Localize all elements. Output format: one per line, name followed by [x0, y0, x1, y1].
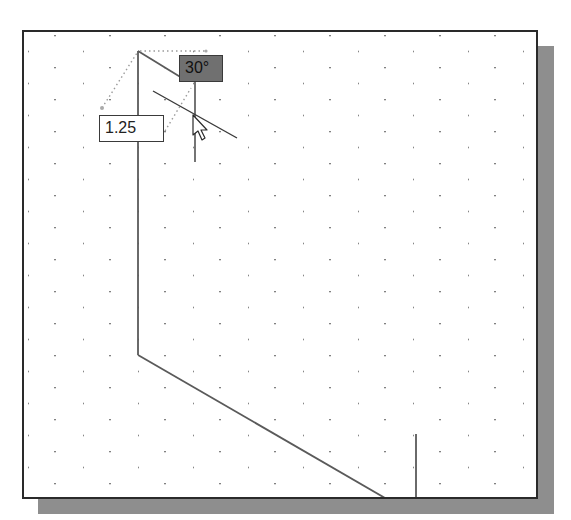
grid-dots	[24, 32, 536, 497]
length-input-box[interactable]: 1.25	[99, 115, 164, 142]
angle-endpoint-marker	[204, 49, 207, 52]
angle-input-box[interactable]: 30°	[179, 55, 223, 82]
extension-endpoint-marker	[100, 106, 104, 110]
drawing-layer	[0, 0, 571, 520]
angle-value: 30°	[185, 59, 209, 76]
length-value: 1.25	[105, 119, 136, 136]
